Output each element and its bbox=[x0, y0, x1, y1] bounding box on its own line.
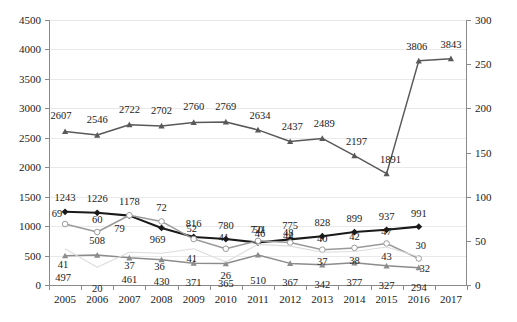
data-label: 461 bbox=[122, 275, 138, 286]
data-label: 3806 bbox=[406, 42, 427, 53]
data-point-marker bbox=[158, 225, 165, 232]
data-label: 69 bbox=[52, 209, 63, 220]
data-label: 26 bbox=[221, 271, 232, 282]
line-chart: 050010001500200025003000350040004500 050… bbox=[0, 0, 517, 322]
data-point-marker bbox=[352, 245, 358, 251]
data-point-marker bbox=[384, 241, 390, 247]
data-label: 1243 bbox=[55, 193, 76, 204]
data-point-marker bbox=[384, 171, 390, 177]
data-point-marker bbox=[159, 219, 165, 225]
data-point-marker bbox=[415, 223, 422, 230]
data-label: 430 bbox=[154, 276, 170, 287]
data-label: 342 bbox=[314, 280, 330, 291]
data-label: 72 bbox=[156, 203, 167, 214]
data-label: 991 bbox=[411, 208, 427, 219]
data-label: 41 bbox=[186, 254, 197, 265]
data-label: 497 bbox=[55, 272, 71, 283]
data-label: 40 bbox=[317, 233, 328, 244]
data-label: 780 bbox=[218, 221, 234, 232]
series-line bbox=[65, 215, 419, 258]
data-label: 377 bbox=[347, 278, 363, 289]
data-label: 37 bbox=[317, 257, 328, 268]
data-label: 2634 bbox=[250, 111, 271, 122]
data-label: 1891 bbox=[380, 154, 401, 165]
data-label: 327 bbox=[379, 280, 395, 291]
data-label: 2760 bbox=[183, 102, 204, 113]
data-label: 46 bbox=[255, 229, 266, 240]
data-label: 508 bbox=[89, 236, 105, 247]
data-label: 899 bbox=[347, 214, 363, 225]
data-label: 828 bbox=[314, 218, 330, 229]
data-label: 79 bbox=[114, 224, 125, 235]
data-point-marker bbox=[62, 208, 69, 215]
data-label: 41 bbox=[58, 260, 69, 271]
data-label: 1226 bbox=[87, 194, 108, 205]
data-label: 60 bbox=[92, 215, 103, 226]
data-label: 43 bbox=[381, 252, 392, 263]
data-label: 371 bbox=[186, 278, 202, 289]
data-point-marker bbox=[191, 236, 197, 242]
data-label: 2769 bbox=[215, 102, 236, 113]
data-label: 20 bbox=[92, 284, 103, 295]
data-label: 41 bbox=[219, 233, 230, 244]
series-series-open-circle bbox=[62, 212, 421, 261]
data-label: 937 bbox=[379, 212, 395, 223]
data-point-marker bbox=[223, 246, 229, 252]
data-label: 30 bbox=[416, 240, 427, 251]
series-series-mid-grey-triangle bbox=[62, 252, 422, 270]
data-label: 42 bbox=[349, 232, 360, 243]
data-label: 2437 bbox=[282, 122, 303, 133]
data-label: 2546 bbox=[87, 115, 108, 126]
series-line bbox=[65, 255, 419, 268]
data-label: 2607 bbox=[51, 111, 72, 122]
data-label: 294 bbox=[411, 282, 427, 293]
data-point-marker bbox=[351, 153, 357, 159]
data-label: 2489 bbox=[314, 119, 335, 130]
data-point-marker bbox=[255, 252, 261, 258]
data-label: 2702 bbox=[151, 106, 172, 117]
data-label: 52 bbox=[186, 224, 197, 235]
data-label: 47 bbox=[381, 227, 392, 238]
data-label: 36 bbox=[154, 262, 165, 273]
data-label: 1178 bbox=[119, 196, 140, 207]
data-label: 510 bbox=[250, 276, 266, 287]
data-label: 3843 bbox=[440, 39, 461, 50]
data-label: 32 bbox=[420, 263, 431, 274]
data-label: 38 bbox=[349, 256, 360, 267]
data-label: 367 bbox=[282, 278, 298, 289]
data-label: 2722 bbox=[119, 104, 140, 115]
data-label: 969 bbox=[150, 235, 166, 246]
data-label: 37 bbox=[124, 261, 135, 272]
data-point-marker bbox=[127, 212, 133, 218]
data-label: 44 bbox=[283, 231, 294, 242]
data-label: 2197 bbox=[346, 136, 367, 147]
data-point-marker bbox=[62, 221, 68, 227]
